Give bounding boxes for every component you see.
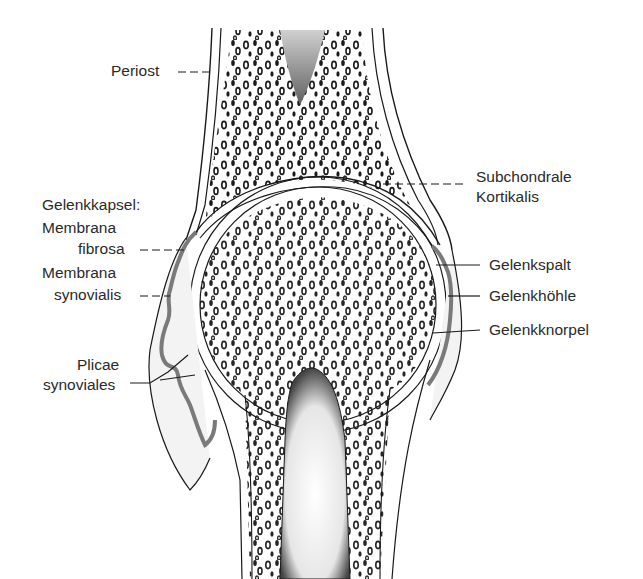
label-gelenkknorpel: Gelenkknorpel: [489, 321, 589, 339]
label-gelenkkapsel: Gelenkkapsel:: [42, 196, 140, 214]
label-plicae-line1: Plicae: [77, 356, 119, 374]
label-subchondrale-line1: Subchondrale: [476, 168, 572, 186]
label-membrana-fibrosa-line2: fibrosa: [78, 240, 125, 258]
label-membrana-fibrosa-line1: Membrana: [42, 219, 116, 237]
label-gelenkhoehle: Gelenkhöhle: [489, 287, 576, 305]
label-gelenkspalt: Gelenkspalt: [489, 256, 571, 274]
label-subchondrale-line2: Kortikalis: [476, 188, 539, 206]
label-membrana-synovialis-line1: Membrana: [42, 264, 116, 282]
label-plicae-line2: synoviales: [43, 376, 115, 394]
label-periost: Periost: [111, 62, 159, 80]
label-membrana-synovialis-line2: synovialis: [54, 286, 121, 304]
lower-bone: [190, 177, 446, 579]
